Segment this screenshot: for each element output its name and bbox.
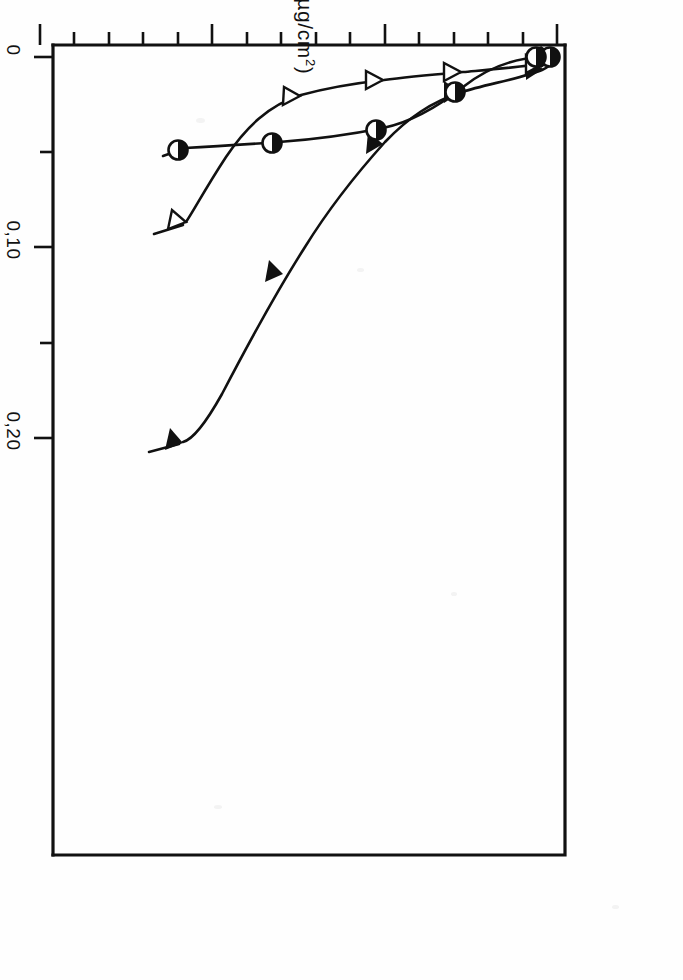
- y-axis-title: fibrinogen adsorption (µg/cm2): [294, 0, 318, 74]
- series-filled-triangle-line: [183, 57, 557, 442]
- x-tick-label-1: 0,10: [3, 221, 24, 260]
- marker-triangle-filled: [165, 428, 183, 450]
- series-open-triangle-markers: [168, 48, 557, 229]
- x-axis-tick-labels: 0 0,10 0,20: [3, 44, 24, 450]
- series-open-triangle: [154, 48, 557, 234]
- series-filled-triangle: [149, 46, 557, 452]
- y-axis-title-tail: ): [294, 67, 317, 75]
- x-axis-ticks: [34, 57, 53, 438]
- x-tick-label-0: 0: [3, 44, 24, 55]
- scan-speck: [612, 905, 619, 909]
- y-axis-title-superscript: 2: [303, 59, 318, 67]
- marker-triangle-open: [283, 87, 300, 105]
- marker-triangle-filled: [265, 260, 283, 282]
- chart-svg: 0 0,10 0,20: [0, 0, 683, 980]
- scan-speck: [451, 592, 457, 596]
- marker-triangle-open: [366, 71, 383, 89]
- y-axis-title-group: fibrinogen adsorption (µg/cm2): [294, 0, 318, 74]
- marker-triangle-open: [444, 63, 461, 81]
- scan-speck: [357, 268, 364, 272]
- rotated-figure-group: 0 0,10 0,20: [0, 0, 683, 980]
- series-circles: [163, 48, 560, 160]
- plot-frame: [53, 45, 565, 855]
- scan-speck: [214, 805, 222, 809]
- scan-speck: [196, 118, 205, 123]
- x-tick-label-2: 0,20: [3, 412, 24, 451]
- figure-canvas: 0 0,10 0,20: [0, 0, 683, 980]
- y-axis-title-main: fibrinogen adsorption (µg/cm: [294, 0, 317, 59]
